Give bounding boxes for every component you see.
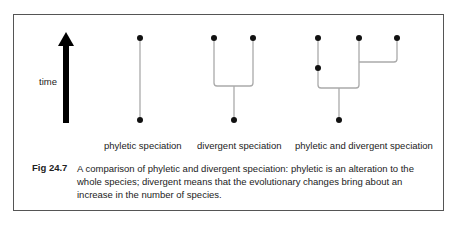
node xyxy=(250,35,256,41)
phyletic-divergent-tree xyxy=(318,38,397,120)
figure-number: Fig 24.7 xyxy=(32,162,67,173)
node xyxy=(336,117,342,123)
node xyxy=(137,35,143,41)
panel-label-phyletic: phyletic speciation xyxy=(104,140,182,151)
figure-caption: A comparison of phyletic and divergent s… xyxy=(77,162,417,201)
time-arrow-icon xyxy=(58,32,74,123)
time-label: time xyxy=(39,76,57,87)
node xyxy=(231,117,237,123)
divergent-tree xyxy=(214,38,253,120)
panel-label-both: phyletic and divergent speciation xyxy=(295,140,433,151)
node xyxy=(394,35,400,41)
node xyxy=(315,35,321,41)
node xyxy=(356,35,362,41)
node xyxy=(137,117,143,123)
node xyxy=(211,35,217,41)
node xyxy=(315,65,321,71)
panel-label-divergent: divergent speciation xyxy=(197,140,282,151)
